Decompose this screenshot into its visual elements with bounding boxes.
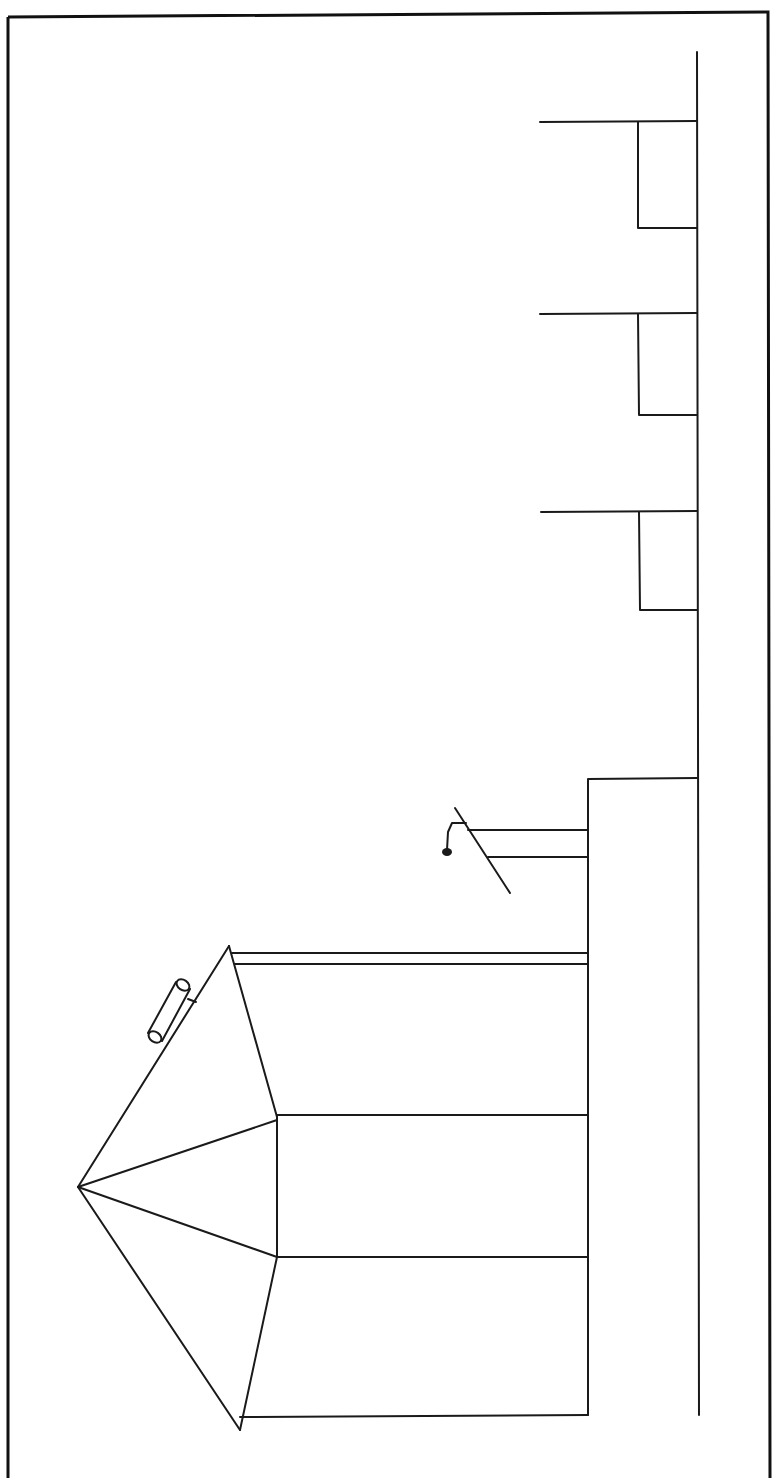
roof [78, 946, 277, 1430]
window-3 [541, 511, 697, 610]
lamp-icon [442, 808, 588, 893]
drawing-canvas [0, 0, 782, 1481]
window-2 [540, 313, 697, 415]
porch-block [588, 778, 697, 1415]
ground-line [697, 52, 699, 1415]
outer-frame [8, 12, 770, 1478]
window-1 [540, 121, 697, 228]
house-body [232, 953, 588, 1417]
